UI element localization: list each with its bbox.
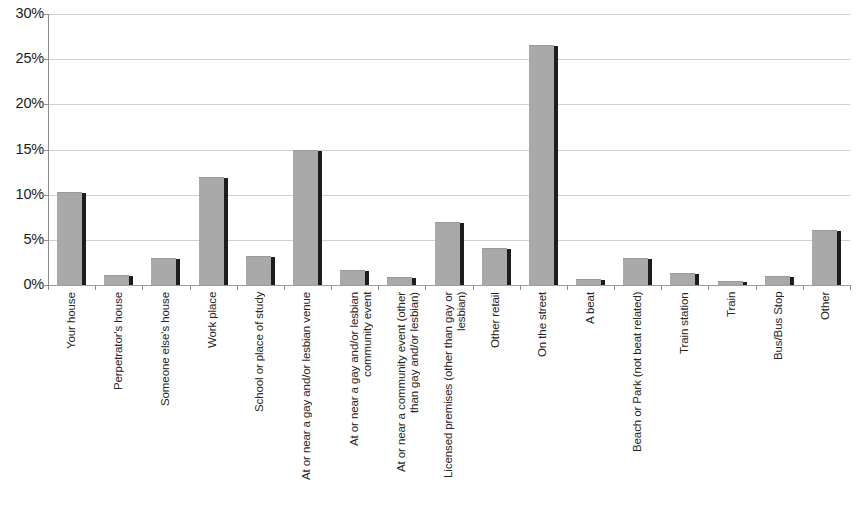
bar-body	[435, 222, 460, 285]
x-axis-category-label: Someone else's house	[159, 292, 172, 524]
x-axis-category-label: Other retail	[489, 292, 502, 524]
x-axis-tick-mark	[708, 285, 709, 290]
y-axis-tick-mark	[42, 195, 48, 196]
x-axis-category-label: Licensed premises (other than gay or les…	[442, 292, 468, 524]
y-axis-tick-label: 20%	[0, 95, 44, 111]
x-axis-category-label: On the street	[536, 292, 549, 524]
bar-body	[293, 150, 318, 285]
bar	[340, 271, 365, 285]
x-axis-tick-mark	[284, 285, 285, 290]
bar	[623, 259, 648, 285]
bar	[529, 46, 554, 285]
x-axis-tick-mark	[425, 285, 426, 290]
bar-shadow	[554, 46, 558, 285]
x-axis-tick-mark	[567, 285, 568, 290]
x-axis-category-label: Your house	[65, 292, 78, 524]
x-axis-category-label: At or near a gay and/or lesbian communit…	[348, 292, 374, 524]
x-axis-tick-mark	[520, 285, 521, 290]
plot-area	[48, 14, 850, 285]
bar-chart: 30%25%20%15%10%5%0% Your housePerpetrato…	[0, 0, 857, 528]
y-axis-tick-mark	[42, 104, 48, 105]
x-axis-category-label: Perpetrator's house	[112, 292, 125, 524]
gridline	[48, 150, 850, 151]
x-axis-tick-mark	[850, 285, 851, 290]
bar	[57, 193, 82, 285]
bar	[199, 178, 224, 285]
y-axis-tick-label: 10%	[0, 186, 44, 202]
bar	[293, 151, 318, 285]
gridline	[48, 195, 850, 196]
x-axis-tick-mark	[614, 285, 615, 290]
bar-body	[57, 192, 82, 285]
x-axis-tick-mark	[48, 285, 49, 290]
x-axis-tick-mark	[95, 285, 96, 290]
bar-body	[623, 258, 648, 285]
bar-body	[670, 273, 695, 285]
bar-body	[482, 248, 507, 285]
bar-shadow	[365, 271, 369, 285]
bar-body	[387, 277, 412, 285]
bar	[765, 277, 790, 285]
y-axis-tick-label: 0%	[0, 276, 44, 292]
x-axis-tick-mark	[756, 285, 757, 290]
x-axis-category-label: Train	[725, 292, 738, 524]
x-axis-tick-mark	[190, 285, 191, 290]
bar-shadow	[82, 193, 86, 285]
y-axis-tick-label: 5%	[0, 231, 44, 247]
bar-body	[812, 230, 837, 285]
x-axis-category-label: Bus/Bus Stop	[772, 292, 785, 524]
x-axis-tick-marks	[48, 285, 850, 290]
x-axis-category-label: Train station	[678, 292, 691, 524]
x-axis-category-label: At or near a community event (other than…	[395, 292, 421, 524]
x-axis-tick-mark	[331, 285, 332, 290]
bar-body	[104, 275, 129, 285]
y-axis-tick-label: 15%	[0, 141, 44, 157]
x-axis-category-labels: Your housePerpetrator's houseSomeone els…	[48, 292, 850, 528]
bar-shadow	[507, 249, 511, 285]
bar-shadow	[790, 277, 794, 285]
bar	[246, 257, 271, 285]
y-axis-line	[48, 14, 49, 286]
gridline	[48, 14, 850, 15]
y-axis-tick-mark	[42, 150, 48, 151]
bar-shadow	[648, 259, 652, 285]
x-axis-tick-mark	[142, 285, 143, 290]
bar-body	[199, 177, 224, 285]
bar-body	[151, 258, 176, 285]
bar-shadow	[271, 257, 275, 285]
y-axis-tick-mark	[42, 14, 48, 15]
bar	[670, 274, 695, 285]
x-axis-tick-mark	[473, 285, 474, 290]
x-axis-category-label: At or near a gay and/or lesbian venue	[300, 292, 313, 524]
gridline	[48, 104, 850, 105]
bar-shadow	[318, 151, 322, 285]
bar	[387, 278, 412, 285]
y-axis-tick-mark	[42, 59, 48, 60]
bar-body	[246, 256, 271, 285]
x-axis-category-label: School or place of study	[253, 292, 266, 524]
bar-shadow	[837, 231, 841, 285]
y-axis-tick-label: 30%	[0, 5, 44, 21]
bar	[812, 231, 837, 285]
x-axis-tick-mark	[803, 285, 804, 290]
x-axis-tick-mark	[661, 285, 662, 290]
bar	[104, 276, 129, 285]
bar	[151, 259, 176, 285]
x-axis-category-label: Work place	[206, 292, 219, 524]
bar-shadow	[129, 276, 133, 285]
y-axis-tick-label: 25%	[0, 50, 44, 66]
bar-body	[340, 270, 365, 285]
bar-shadow	[412, 278, 416, 285]
x-axis-category-label: Other	[819, 292, 832, 524]
bar-shadow	[224, 178, 228, 285]
bar-shadow	[460, 223, 464, 285]
bar-shadow	[695, 274, 699, 285]
y-axis-tick-mark	[42, 240, 48, 241]
bar	[435, 223, 460, 285]
x-axis-tick-mark	[237, 285, 238, 290]
x-axis-category-label: A beat	[584, 292, 597, 524]
bar-shadow	[176, 259, 180, 285]
x-axis-category-label: Beach or Park (not beat related)	[631, 292, 644, 524]
gridline	[48, 59, 850, 60]
x-axis-tick-mark	[378, 285, 379, 290]
